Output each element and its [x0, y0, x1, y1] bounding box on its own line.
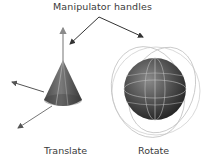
sphere-object: [124, 58, 186, 120]
callout-arrows: [70, 17, 143, 44]
z-axis-arrow: [18, 106, 52, 128]
cone-object: [44, 60, 82, 106]
translate-label: Translate: [44, 145, 87, 156]
rotate-label: Rotate: [138, 145, 169, 156]
x-axis-arrow: [12, 82, 44, 92]
diagram-canvas: [0, 0, 205, 164]
rotate-manipulator: [101, 38, 205, 146]
